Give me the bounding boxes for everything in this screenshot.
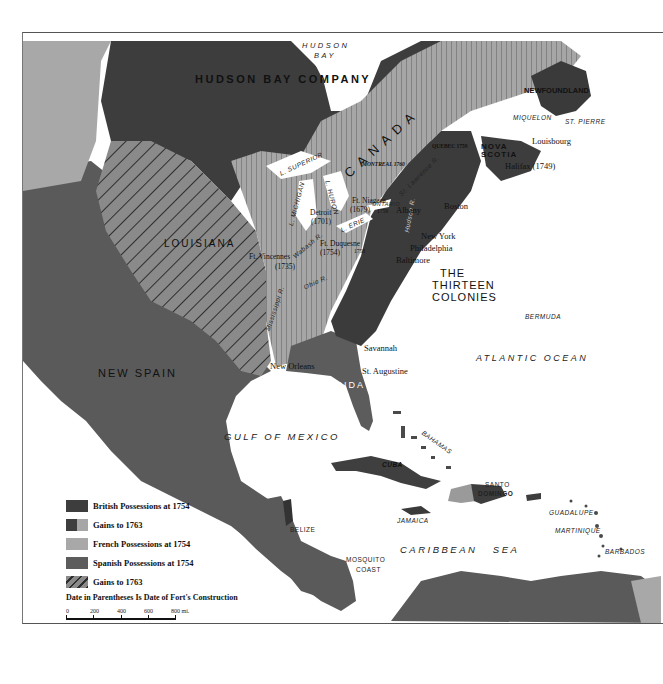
label-halifax: Halifax (1749) (505, 162, 555, 171)
label-ft-niagara-1: Ft. Niagara (352, 197, 386, 205)
label-hudson-bay-2: BAY (314, 52, 336, 60)
label-new-spain: NEW SPAIN (98, 368, 177, 379)
scale-tick-label: 600 (144, 608, 153, 614)
label-newfoundland: NEWFOUNDLAND (524, 87, 589, 95)
label-nova-scotia: NOVA SCOTIA (481, 143, 521, 159)
label-belize: BELIZE (290, 527, 315, 534)
label-louisiana: LOUISIANA (164, 239, 235, 249)
label-hudson-bay-1: HUDSON (302, 42, 350, 50)
label-thirteen-colonies-1: THE (440, 268, 465, 279)
label-ft-duquesne-year: 1758 (354, 249, 365, 255)
label-thirteen-colonies-2: THIRTEEN (432, 280, 495, 291)
region-south-america (391, 571, 661, 623)
label-ft-duquesne-1: Ft. Duquesne (320, 240, 360, 248)
label-ft-vincennes-1: Ft. Vincennes (249, 253, 290, 261)
label-philadelphia: Philadelphia (410, 244, 453, 253)
legend-swatch-french (66, 538, 88, 550)
label-hudson-bay-company: HUDSON BAY COMPANY (195, 74, 371, 85)
legend-item-british-gains: Gains to 1763 (66, 515, 193, 534)
label-detroit-2: (1701) (311, 218, 331, 226)
label-baltimore: Baltimore (396, 256, 430, 265)
legend-label: French Possessions at 1754 (93, 539, 190, 549)
label-st-pierre: ST. PIERRE (565, 119, 606, 126)
label-ft-niagara-2: (1679) (350, 206, 370, 214)
label-jamaica: JAMAICA (397, 518, 429, 525)
label-new-york: New York (421, 232, 455, 241)
legend-note: Date in Parentheses Is Date of Fort's Co… (66, 593, 238, 602)
label-detroit-1: Detroit (310, 209, 331, 217)
legend: British Possessions at 1754 Gains to 176… (66, 496, 193, 591)
legend-item-spanish-gains: Gains to 1763 (66, 572, 193, 591)
legend-swatch-spanish-gains (66, 576, 88, 588)
label-caribbean-sea: CARIBBEAN SEA (400, 545, 519, 555)
label-miquelon: MIQUELON (513, 115, 552, 122)
label-boston: Boston (444, 202, 468, 211)
scale-tick (93, 615, 94, 620)
label-barbados: BARBADOS (605, 549, 645, 556)
scale-tick (175, 615, 176, 620)
label-louisbourg: Louisbourg (532, 137, 571, 146)
label-ft-duquesne-2: (1754) (320, 249, 340, 257)
label-martinique: MARTINIQUE (555, 528, 601, 535)
legend-swatch-british-gains (66, 519, 88, 531)
legend-swatch-british (66, 500, 88, 512)
label-thirteen-colonies-3: COLONIES (432, 292, 497, 303)
scale-tick-label: 800 mi. (171, 608, 189, 614)
scale-tick-label: 200 (90, 608, 99, 614)
island-puerto-rico (526, 493, 541, 501)
label-st-augustine: St. Augustine (362, 367, 408, 376)
legend-label: Spanish Possessions at 1754 (93, 558, 193, 568)
scale-tick (121, 615, 122, 620)
legend-swatch-spanish (66, 557, 88, 569)
label-quebec: QUEBEC 1759 (432, 144, 468, 150)
label-guadalupe: GUADALUPE (549, 510, 594, 517)
label-mosquito-coast-1: MOSQUITO (346, 557, 385, 564)
scale-tick-label: 0 (66, 608, 69, 614)
legend-item-spanish: Spanish Possessions at 1754 (66, 553, 193, 572)
label-santo-domingo-1: SANTO (485, 482, 510, 489)
legend-item-british: British Possessions at 1754 (66, 496, 193, 515)
label-ft-vincennes-2: (1735) (275, 263, 295, 271)
label-florida: FLORIDA (312, 381, 365, 390)
label-savannah: Savannah (364, 344, 397, 353)
label-mosquito-coast-2: COAST (356, 567, 381, 574)
legend-label: British Possessions at 1754 (93, 501, 190, 511)
label-atlantic-ocean: ATLANTIC OCEAN (476, 354, 588, 363)
label-bermuda: BERMUDA (525, 314, 561, 321)
legend-label: Gains to 1763 (93, 520, 143, 530)
label-santo-domingo-2: DOMINGO (478, 491, 513, 498)
scale-bar: 0 200 400 600 800 mi. (66, 608, 236, 626)
island-jamaica (401, 506, 431, 515)
label-cuba: CUBA (382, 462, 403, 469)
scale-tick (66, 615, 67, 620)
scale-tick-label: 400 (117, 608, 126, 614)
label-ft-niagara-year: 1759 (377, 209, 388, 215)
legend-label: Gains to 1763 (93, 577, 143, 587)
legend-item-french: French Possessions at 1754 (66, 534, 193, 553)
scale-tick (148, 615, 149, 620)
label-new-orleans: New Orleans (270, 362, 315, 371)
label-montreal: MONTREAL 1760 (362, 162, 405, 168)
label-albany: Albany (396, 206, 421, 215)
label-gulf-of-mexico: GULF OF MEXICO (224, 432, 340, 442)
